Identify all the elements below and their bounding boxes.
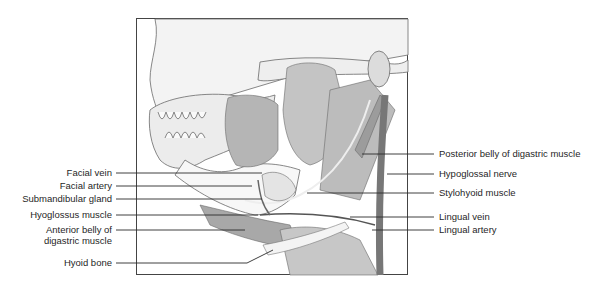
label-hypoglossal-nerve: Hypoglossal nerve	[439, 168, 517, 179]
label-anterior-belly-line1: Anterior belly of	[44, 224, 112, 235]
label-hyoid-bone: Hyoid bone	[64, 257, 112, 268]
masseter-muscle	[225, 95, 278, 167]
label-posterior-belly-digastric: Posterior belly of digastric muscle	[439, 148, 581, 159]
label-lingual-artery: Lingual artery	[439, 224, 497, 235]
label-anterior-belly-digastric: Anterior belly of digastric muscle	[44, 224, 112, 246]
label-anterior-belly-line2: digastric muscle	[44, 235, 112, 246]
label-submandibular-gland: Submandibular gland	[22, 193, 112, 204]
label-facial-artery: Facial artery	[60, 180, 112, 191]
label-facial-vein: Facial vein	[67, 167, 112, 178]
label-stylohyoid-muscle: Stylohyoid muscle	[439, 187, 516, 198]
anatomy-figure: Facial vein Facial artery Submandibular …	[0, 0, 600, 289]
label-lingual-vein: Lingual vein	[439, 211, 490, 222]
label-hyoglossus-muscle: Hyoglossus muscle	[30, 209, 112, 220]
